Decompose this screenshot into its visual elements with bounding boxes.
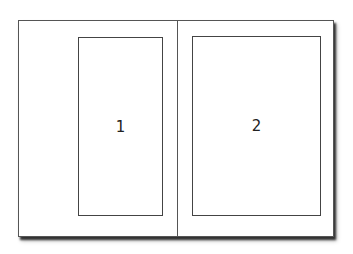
frame-1: 1 <box>78 37 163 216</box>
spine-divider <box>177 20 178 237</box>
frame-1-label: 1 <box>79 118 162 136</box>
frame-2: 2 <box>192 36 321 216</box>
frame-2-label: 2 <box>193 117 320 135</box>
